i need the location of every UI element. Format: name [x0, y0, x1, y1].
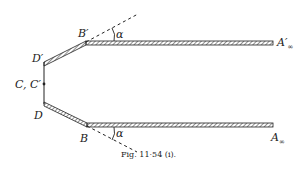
figure-diagram: D′ B′ α A′∞ C, C′ D B α A∞ Fig. 11·54 (i…: [0, 0, 303, 174]
upper-wall: [44, 41, 273, 66]
label-b-prime: B′: [77, 27, 89, 40]
label-c-c-prime: C, C′: [15, 78, 41, 91]
upper-slant-wall: [44, 41, 86, 66]
label-alpha-top: α: [116, 28, 124, 41]
lower-wall: [44, 102, 273, 127]
subscript-infinity: ∞: [287, 43, 293, 51]
label-d-prime: D′: [31, 52, 44, 65]
lower-dashed-extension: [87, 126, 137, 152]
label-alpha-bottom: α: [116, 127, 124, 140]
label-a-prime-inf: A′∞: [276, 36, 293, 51]
upper-angle-arc: [112, 28, 115, 41]
label-d: D: [33, 109, 43, 122]
lower-horizontal-wall: [87, 123, 273, 127]
label-a-inf: A∞: [270, 131, 285, 146]
subscript-infinity: ∞: [279, 138, 285, 146]
upper-horizontal-wall: [86, 41, 273, 45]
c-point-dot: [43, 83, 46, 86]
label-b: B: [79, 132, 88, 145]
lower-slant-wall: [44, 102, 87, 127]
lower-angle-arc: [112, 127, 115, 140]
figure-caption: Fig. 11·54 (i).: [121, 150, 176, 159]
